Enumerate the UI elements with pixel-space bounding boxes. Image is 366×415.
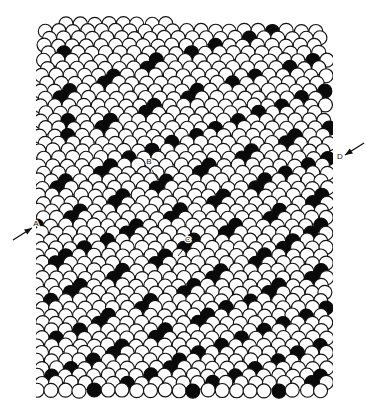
open-sphere [158,383,172,397]
open-sphere [44,383,58,397]
open-sphere [101,383,115,397]
open-sphere [201,383,215,397]
spheres-layer [29,17,336,399]
filled-sphere [186,384,200,398]
open-sphere [72,384,86,398]
open-sphere [257,384,271,398]
annotation-label-a: A [33,219,39,228]
open-sphere [115,383,129,397]
open-sphere [285,383,299,397]
open-sphere [301,383,315,397]
open-sphere [130,384,144,398]
open-sphere [143,384,157,398]
open-sphere [314,384,328,398]
annotation-label-c: C [185,235,191,244]
filled-sphere [272,384,286,398]
annotation-label-d: D [337,152,343,161]
open-sphere [215,384,229,398]
open-sphere [58,383,72,397]
filled-sphere [87,383,101,397]
figure-root: AABBCCDD [0,0,366,415]
open-sphere [172,384,186,398]
annotation-label-b: B [146,157,151,166]
bubble-raft-lattice: AABBCCDD [0,0,366,415]
open-sphere [230,384,244,398]
open-sphere [243,384,257,398]
